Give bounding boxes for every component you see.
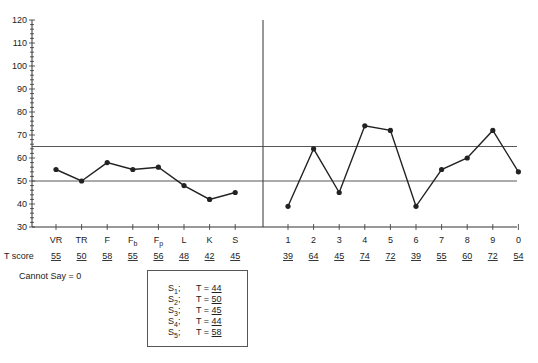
y-tick-label: 80 <box>17 107 27 117</box>
t-score-value: 72 <box>385 251 395 261</box>
data-point <box>181 183 186 188</box>
data-point <box>388 128 393 133</box>
data-point <box>516 169 521 174</box>
data-point <box>490 128 495 133</box>
data-point <box>337 190 342 195</box>
y-tick-label: 120 <box>12 15 27 25</box>
t-score-value: 42 <box>205 251 215 261</box>
data-point <box>156 165 161 170</box>
y-tick-label: 60 <box>17 153 27 163</box>
data-point <box>79 178 84 183</box>
data-point <box>105 160 110 165</box>
x-category-label: 6 <box>413 235 418 245</box>
data-point <box>207 197 212 202</box>
y-tick-label: 40 <box>17 199 27 209</box>
x-category-label: VR <box>50 235 63 245</box>
x-category-label: K <box>207 235 213 245</box>
t-score-value: 58 <box>102 251 112 261</box>
x-category-label: 5 <box>388 235 393 245</box>
x-category-label: Fb <box>128 235 138 247</box>
x-category-label: 9 <box>490 235 495 245</box>
data-point <box>465 155 470 160</box>
profile-chart: 30405060708090100110120VR55TR50F58Fb55Fp… <box>0 0 538 363</box>
t-score-value: 55 <box>51 251 61 261</box>
data-point <box>285 204 290 209</box>
data-point <box>53 167 58 172</box>
subscale-row: S3;T = 45 <box>168 305 222 315</box>
data-point <box>362 123 367 128</box>
subscale-box: S1;T = 44S2;T = 50S3;T = 45S4;T = 44S5;T… <box>147 270 248 347</box>
t-score-value: 45 <box>334 251 344 261</box>
data-point <box>130 167 135 172</box>
x-category-label: 2 <box>311 235 316 245</box>
t-score-value: 45 <box>230 251 240 261</box>
x-category-label: 8 <box>465 235 470 245</box>
data-point <box>439 167 444 172</box>
x-category-label: 0 <box>516 235 521 245</box>
y-tick-label: 50 <box>17 176 27 186</box>
t-score-value: 39 <box>411 251 421 261</box>
subscale-row: S4;T = 44 <box>168 316 222 326</box>
t-score-value: 74 <box>360 251 370 261</box>
t-score-value: 64 <box>309 251 319 261</box>
x-category-label: 4 <box>362 235 367 245</box>
t-score-value: 48 <box>179 251 189 261</box>
t-score-value: 56 <box>153 251 163 261</box>
subscale-row: S1;T = 44 <box>168 283 222 293</box>
clinical-line <box>288 126 518 207</box>
data-point <box>413 204 418 209</box>
x-category-label: 7 <box>439 235 444 245</box>
y-tick-label: 30 <box>17 222 27 232</box>
t-score-value: 60 <box>462 251 472 261</box>
t-score-value: 55 <box>128 251 138 261</box>
x-category-label: L <box>181 235 186 245</box>
data-point <box>311 146 316 151</box>
x-category-label: 1 <box>285 235 290 245</box>
x-category-label: F <box>104 235 110 245</box>
y-tick-label: 110 <box>13 38 27 48</box>
data-point <box>233 190 238 195</box>
t-score-value: 55 <box>437 251 447 261</box>
t-score-row-label: T score <box>4 251 34 261</box>
subscale-row: S2;T = 50 <box>168 294 222 304</box>
cannot-say-label: Cannot Say = 0 <box>19 271 81 281</box>
t-score-value: 72 <box>488 251 498 261</box>
y-tick-label: 100 <box>12 61 27 71</box>
x-category-label: 3 <box>337 235 342 245</box>
x-category-label: TR <box>76 235 88 245</box>
t-score-value: 39 <box>283 251 293 261</box>
y-tick-label: 90 <box>17 84 27 94</box>
y-tick-label: 70 <box>17 130 27 140</box>
t-score-value: 50 <box>77 251 87 261</box>
x-category-label: Fp <box>154 235 164 248</box>
t-score-value: 54 <box>513 251 523 261</box>
x-category-label: S <box>232 235 238 245</box>
subscale-row: S5;T = 58 <box>168 327 222 337</box>
